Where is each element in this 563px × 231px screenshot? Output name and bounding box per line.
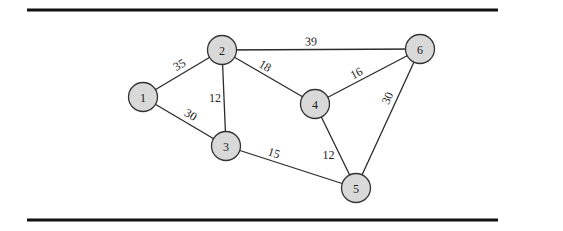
edge-2-4 [222,50,315,104]
edge-labels-layer: 353012183915121630 [171,35,397,162]
edge-2-6 [222,49,420,50]
node-3: 3 [212,132,241,161]
graph-svg: 353012183915121630 123456 [0,0,563,231]
node-5: 5 [342,174,371,203]
node-label: 1 [140,91,146,105]
edge-3-5 [226,146,356,188]
node-label: 6 [417,43,423,57]
graph-diagram: 353012183915121630 123456 [0,0,563,231]
node-2: 2 [208,36,237,65]
edge-4-6 [315,49,420,104]
edge-weight-5-6: 30 [379,90,397,107]
edge-weight-2-3: 12 [209,91,221,105]
node-label: 4 [312,98,318,112]
node-6: 6 [406,35,435,64]
edge-weight-4-5: 12 [323,148,335,162]
node-label: 2 [219,44,225,58]
edge-weight-2-6: 39 [305,35,317,49]
node-label: 5 [353,182,359,196]
node-4: 4 [301,90,330,119]
edge-weight-3-5: 15 [266,145,282,162]
node-label: 3 [223,140,229,154]
edge-5-6 [356,49,420,188]
node-1: 1 [129,83,158,112]
